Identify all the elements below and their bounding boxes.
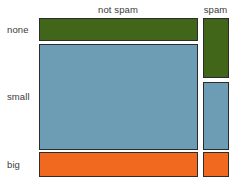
mosaic-tile-spam-big [203, 152, 229, 177]
mosaic-tile-spam-small [203, 82, 229, 150]
row-label-small: small [7, 91, 30, 102]
mosaic-tile-notspam-small [39, 44, 198, 150]
column-label-not-spam: not spam [39, 4, 197, 15]
row-label-big: big [7, 159, 20, 170]
mosaic-tile-notspam-big [39, 152, 198, 177]
mosaic-tile-notspam-none [39, 18, 198, 41]
mosaic-plot: not spam spam none small big [0, 0, 231, 184]
column-label-spam: spam [201, 4, 230, 15]
row-label-none: none [7, 24, 29, 35]
mosaic-tile-spam-none [203, 18, 229, 78]
